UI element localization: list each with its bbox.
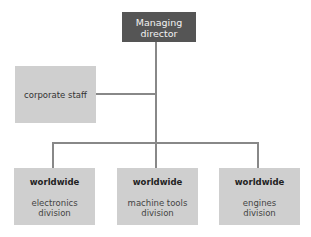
connector-divisions-horizontal bbox=[52, 142, 259, 144]
division-name-line1: engines bbox=[243, 198, 276, 208]
corporate-staff-box: corporate staff bbox=[15, 66, 96, 123]
machine-tools-division-box: worldwide machine tools division bbox=[117, 168, 198, 225]
connector-division-left bbox=[52, 142, 54, 168]
division-heading: worldwide bbox=[30, 177, 80, 187]
managing-director-line1: Managing bbox=[136, 17, 183, 28]
corporate-staff-label: corporate staff bbox=[24, 90, 87, 100]
division-name-line1: electronics bbox=[31, 198, 77, 208]
managing-director-line2: director bbox=[141, 28, 178, 39]
electronics-division-box: worldwide electronics division bbox=[14, 168, 95, 225]
connector-staff bbox=[96, 93, 156, 95]
division-heading: worldwide bbox=[133, 177, 183, 187]
division-name-line1: machine tools bbox=[128, 198, 188, 208]
connector-division-right bbox=[257, 142, 259, 168]
engines-division-box: worldwide engines division bbox=[219, 168, 300, 225]
connector-main-vertical bbox=[155, 42, 157, 168]
managing-director-box: Managing director bbox=[122, 12, 196, 42]
division-name-line2: division bbox=[141, 208, 174, 218]
division-heading: worldwide bbox=[235, 177, 285, 187]
division-name-line2: division bbox=[243, 208, 276, 218]
division-name-line2: division bbox=[38, 208, 71, 218]
